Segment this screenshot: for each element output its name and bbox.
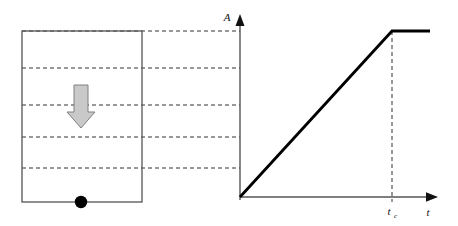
marker-dot-icon <box>75 196 87 208</box>
chart-axes <box>236 14 439 202</box>
y-axis-arrowhead-icon <box>236 14 245 26</box>
projection-guides <box>22 31 240 168</box>
x-axis-arrowhead-icon <box>426 192 438 201</box>
figure-root: A t t c <box>0 0 458 226</box>
y-axis-label: A <box>223 11 231 23</box>
tc-tick-label: t c <box>387 205 398 220</box>
figure-canvas: A t t c <box>0 0 458 226</box>
tc-label-base: t <box>387 205 391 217</box>
tc-label-subscript: c <box>394 212 398 220</box>
flow-arrow-icon <box>67 85 95 128</box>
amplitude-curve <box>240 31 430 197</box>
x-axis-label: t <box>426 206 430 218</box>
